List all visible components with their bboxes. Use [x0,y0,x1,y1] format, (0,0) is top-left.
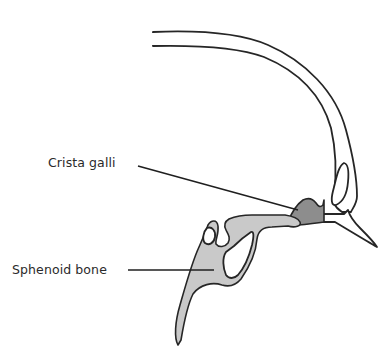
sphenoid-bone-label: Sphenoid bone [12,262,107,277]
skull-illustration [0,0,389,348]
crista-galli-leader [138,166,298,210]
nasal-spine [318,210,377,247]
skull-diagram: Crista galli Sphenoid bone [0,0,389,348]
frontal-bone-band [153,31,357,212]
sphenoid-notch [203,228,215,245]
crista-galli-label: Crista galli [48,155,116,170]
sphenoid-bone [176,215,301,345]
